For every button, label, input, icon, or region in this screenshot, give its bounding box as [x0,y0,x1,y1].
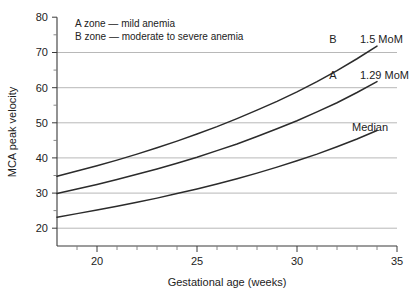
x-tick-label-30: 30 [291,255,303,267]
x-tick-label-20: 20 [91,255,103,267]
y-axis-tick-labels: 80 70 60 50 40 30 20 [36,11,48,234]
x-axis-title: Gestational age (weeks) [168,276,287,288]
curve-labels: B 1.5 MoM A 1.29 MoM Median [329,33,409,133]
y-tick-label-30: 30 [36,187,48,199]
x-axis-ticks [77,246,397,252]
legend-item-a-zone: A zone — mild anemia [75,18,175,29]
curve-label-median: Median [352,121,388,133]
axes-group [57,17,397,246]
curve-label-1-5-mom: 1.5 MoM [360,33,403,45]
curve-label-1-29-mom: 1.29 MoM [360,69,409,81]
y-axis-title: MCA peak velocity [6,86,18,177]
y-tick-label-20: 20 [36,222,48,234]
mca-peak-velocity-chart: 80 70 60 50 40 30 20 [0,0,418,296]
x-tick-label-25: 25 [191,255,203,267]
y-tick-label-70: 70 [36,46,48,58]
y-tick-label-80: 80 [36,11,48,23]
curve-marker-b: B [329,33,336,45]
legend: A zone — mild anemia B zone — moderate t… [75,18,244,42]
y-tick-label-40: 40 [36,152,48,164]
curve-1-5-mom [57,46,377,176]
x-tick-label-35: 35 [391,255,403,267]
gridlines-group [57,53,397,229]
legend-item-b-zone: B zone — moderate to severe anemia [75,31,244,42]
x-axis-tick-labels: 20 25 30 35 [91,255,403,267]
y-tick-label-60: 60 [36,82,48,94]
curve-1-29-mom [57,82,377,194]
y-tick-label-50: 50 [36,117,48,129]
chart-svg: 80 70 60 50 40 30 20 [0,0,418,296]
y-axis-ticks [52,17,57,228]
curve-median [57,131,377,218]
curve-marker-a: A [329,69,337,81]
